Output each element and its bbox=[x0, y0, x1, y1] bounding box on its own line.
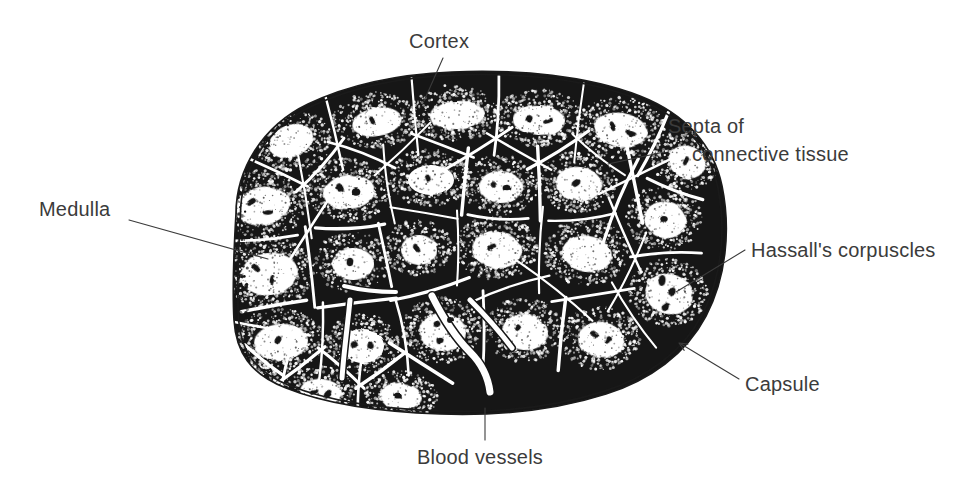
thymus-figure: CortexSepta ofconnective tissueHassall's… bbox=[0, 0, 969, 498]
label-blood-vessels: Blood vessels bbox=[417, 446, 543, 468]
label-septa-of-connective-tissue-line2: connective tissue bbox=[692, 143, 849, 165]
label-septa-of-connective-tissue-line1: Septa of bbox=[668, 115, 744, 137]
thymus-diagram-svg: CortexSepta ofconnective tissueHassall's… bbox=[0, 0, 969, 498]
septum-line bbox=[483, 291, 484, 370]
label-cortex: Cortex bbox=[409, 30, 469, 52]
leader-line-capsule bbox=[681, 344, 739, 379]
label-capsule: Capsule bbox=[745, 373, 820, 395]
label-medulla: Medulla bbox=[39, 198, 111, 220]
specimen-tissue bbox=[206, 71, 726, 432]
label-hassalls-corpuscles: Hassall's corpuscles bbox=[751, 239, 936, 261]
